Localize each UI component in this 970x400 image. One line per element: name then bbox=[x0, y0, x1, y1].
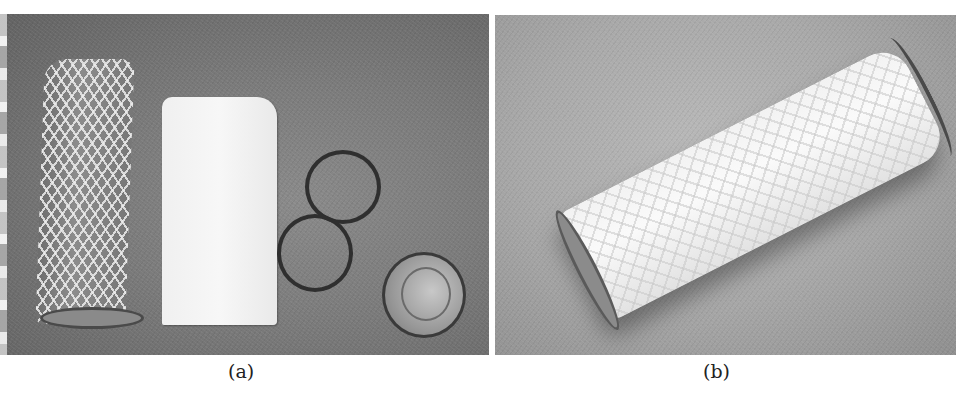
photo-panel-a bbox=[7, 14, 489, 355]
filter-cloth-sheet bbox=[162, 97, 277, 325]
caption-panel-b: (b) bbox=[703, 360, 730, 382]
o-ring-upper bbox=[305, 150, 381, 224]
metal-mesh-tube bbox=[35, 59, 134, 324]
left-edge-artifact bbox=[0, 14, 7, 355]
end-cap-inner-ring bbox=[401, 267, 451, 321]
mesh-tube-base-rim bbox=[40, 307, 144, 329]
transparent-end-cap bbox=[382, 252, 466, 338]
photo-panel-b bbox=[495, 15, 956, 355]
o-ring-lower bbox=[277, 214, 353, 292]
caption-panel-a: (a) bbox=[228, 360, 254, 382]
